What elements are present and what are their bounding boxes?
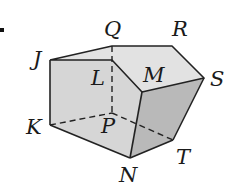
label-L: L [90,66,105,90]
label-N: N [118,163,138,187]
label-R: R [171,17,188,41]
label-P: P [100,114,116,138]
label-K: K [25,115,43,139]
label-S: S [210,67,224,91]
polyhedron-figure: J Q R S L M K P N T [0,0,238,196]
label-T: T [176,145,192,169]
label-J: J [29,47,43,71]
label-Q: Q [104,17,121,41]
marker-dot [0,28,4,32]
label-M: M [142,63,165,87]
